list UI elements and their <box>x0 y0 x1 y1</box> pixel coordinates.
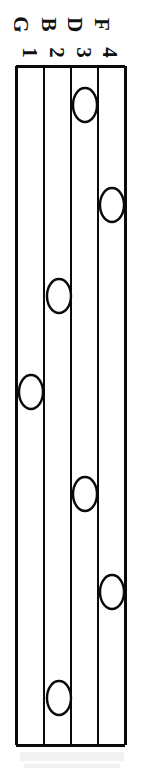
diagram-canvas: G 1 B 2 D 3 F 4 <box>0 0 144 768</box>
note-head[interactable] <box>100 575 124 609</box>
note-head[interactable] <box>73 477 97 511</box>
note-head[interactable] <box>73 88 97 122</box>
note-head[interactable] <box>19 375 43 409</box>
staff-grid-svg <box>0 0 144 768</box>
note-head[interactable] <box>47 279 71 313</box>
note-head[interactable] <box>100 188 124 222</box>
staff-grid <box>0 0 144 768</box>
note-head[interactable] <box>47 681 71 715</box>
smudge-mark-1 <box>20 752 124 761</box>
page-smudge <box>20 752 124 768</box>
staff-rule-lines <box>16 66 125 745</box>
smudge-mark-2 <box>24 764 120 768</box>
